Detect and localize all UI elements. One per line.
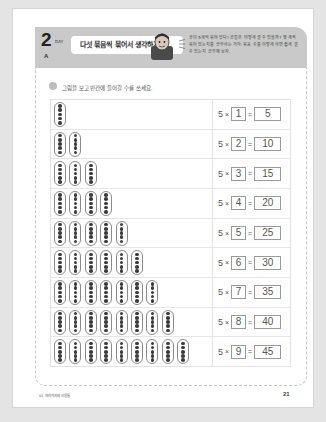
- times-sign: ×: [225, 319, 229, 326]
- dot-icon: [89, 354, 93, 358]
- equals-sign: =: [248, 289, 252, 296]
- dot-icon: [89, 342, 93, 346]
- dot-icon: [58, 286, 62, 290]
- dot-icon: [89, 164, 93, 168]
- dot-icon: [104, 291, 108, 295]
- multiplier-answer-box[interactable]: 5: [231, 226, 246, 240]
- dot-icon: [89, 235, 93, 239]
- dot-icon: [181, 358, 185, 362]
- dot-icon: [120, 282, 124, 286]
- dot-icon: [58, 164, 62, 168]
- dot-icon: [104, 265, 108, 269]
- equation-cell: 5×6=30: [213, 248, 290, 277]
- dot-icon: [74, 235, 78, 239]
- dot-icon: [89, 358, 93, 362]
- five-dot-stick-icon: [146, 310, 158, 335]
- dot-icon: [151, 324, 155, 328]
- dot-icon: [74, 164, 78, 168]
- dot-icon: [89, 282, 93, 286]
- result-answer-box[interactable]: 25: [254, 226, 281, 240]
- five-dot-stick-icon: [69, 221, 81, 246]
- exclaim-lines-icon: [178, 39, 186, 49]
- footer-chapter: 01 여러가지의 선물들: [39, 393, 70, 398]
- table-row: 5×2=10: [51, 130, 290, 160]
- dot-icon: [104, 299, 108, 303]
- dot-icon: [120, 312, 124, 316]
- multiplier-answer-box[interactable]: 9: [231, 345, 246, 359]
- dot-icon: [74, 142, 78, 146]
- dot-icon: [135, 358, 139, 362]
- dot-icon: [151, 354, 155, 358]
- times-sign: ×: [225, 170, 229, 177]
- dot-icon: [120, 350, 124, 354]
- dot-icon: [151, 320, 155, 324]
- dot-icon: [58, 223, 62, 227]
- dot-icon: [151, 286, 155, 290]
- dot-icon: [151, 342, 155, 346]
- lesson-description: 공이 5개씩 묶여 있다! 공들은 어떻게 셀 수 있을까? 몇 개씩 묶어 있…: [189, 34, 301, 55]
- dot-icon: [120, 291, 124, 295]
- dot-icon: [89, 223, 93, 227]
- result-answer-box[interactable]: 15: [254, 167, 281, 181]
- table-row: 5×8=40: [51, 308, 290, 338]
- dot-icon: [58, 151, 62, 155]
- dot-icon: [104, 231, 108, 235]
- times-sign: ×: [225, 230, 229, 237]
- result-answer-box[interactable]: 10: [254, 137, 281, 151]
- dot-icon: [58, 257, 62, 261]
- five-dot-stick-icon: [54, 161, 66, 186]
- multiplier-answer-box[interactable]: 8: [231, 315, 246, 329]
- dot-icon: [58, 316, 62, 320]
- multiplier-answer-box[interactable]: 1: [231, 107, 246, 121]
- multiplier-answer-box[interactable]: 2: [231, 137, 246, 151]
- dot-icon: [58, 282, 62, 286]
- five-dot-stick-icon: [69, 250, 81, 275]
- dot-icon: [166, 312, 170, 316]
- dot-icon: [74, 176, 78, 180]
- dot-icon: [181, 342, 185, 346]
- dot-icon: [58, 197, 62, 201]
- dot-icon: [120, 265, 124, 269]
- multiplier-answer-box[interactable]: 4: [231, 196, 246, 210]
- dot-icon: [135, 312, 139, 316]
- result-answer-box[interactable]: 40: [254, 315, 281, 329]
- five-dot-stick-icon: [100, 221, 112, 246]
- dot-icon: [74, 261, 78, 265]
- multiplier-answer-box[interactable]: 6: [231, 256, 246, 270]
- result-answer-box[interactable]: 30: [254, 256, 281, 270]
- dot-icon: [58, 138, 62, 142]
- five-dot-stick-icon: [131, 310, 143, 335]
- multiplier-answer-box[interactable]: 7: [231, 285, 246, 299]
- dot-icon: [151, 291, 155, 295]
- dot-icon: [74, 202, 78, 206]
- dot-icon: [89, 320, 93, 324]
- dot-icon: [74, 282, 78, 286]
- result-answer-box[interactable]: 20: [254, 196, 281, 210]
- five-dot-stick-icon: [100, 310, 112, 335]
- dot-icon: [74, 253, 78, 257]
- dot-icon: [104, 210, 108, 214]
- dot-icon: [120, 286, 124, 290]
- dot-icon: [135, 257, 139, 261]
- instruction-text: 그림을 보고 빈칸에 들어갈 수를 쓰세요.: [62, 84, 153, 92]
- times-sign: ×: [225, 289, 229, 296]
- five-dot-stick-icon: [85, 221, 97, 246]
- dot-icon: [58, 168, 62, 172]
- equation-cell: 5×3=15: [213, 159, 290, 188]
- multiplier-answer-box[interactable]: 3: [231, 167, 246, 181]
- result-answer-box[interactable]: 45: [254, 345, 281, 359]
- dot-icon: [104, 261, 108, 265]
- dot-icon: [135, 291, 139, 295]
- five-dot-stick-icon: [100, 280, 112, 305]
- result-answer-box[interactable]: 35: [254, 285, 281, 299]
- times-sign: ×: [225, 200, 229, 207]
- five-dot-stick-icon: [85, 191, 97, 216]
- dot-icon: [120, 299, 124, 303]
- dot-icon: [89, 295, 93, 299]
- result-answer-box[interactable]: 5: [254, 107, 281, 121]
- dot-icon: [58, 180, 62, 184]
- five-dot-stick-icon: [116, 339, 128, 364]
- dot-icon: [74, 197, 78, 201]
- dot-icon: [104, 235, 108, 239]
- dot-icon: [74, 223, 78, 227]
